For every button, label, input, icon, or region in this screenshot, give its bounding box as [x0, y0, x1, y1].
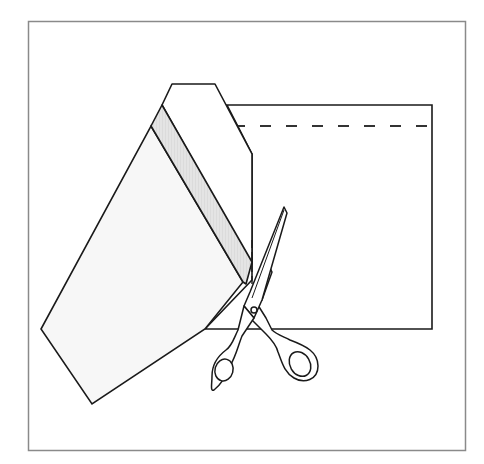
illustration-canvas: Cutting folded paper with scissors Line …	[0, 0, 484, 464]
diagram-svg	[0, 0, 484, 464]
pivot-screw	[251, 307, 257, 313]
